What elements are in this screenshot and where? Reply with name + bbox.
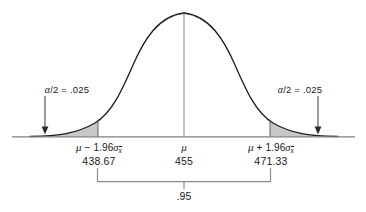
upper-sigma-subscript-xbar: x xyxy=(291,147,294,155)
mean-value: 455 xyxy=(175,156,193,167)
left-alpha-rest: /2 = .025 xyxy=(50,84,89,95)
mean-mu-symbol: μ xyxy=(181,141,187,153)
confidence-level-value: .95 xyxy=(176,191,191,202)
right-tail-pointer-arrow xyxy=(315,96,322,135)
right-tail-shaded-region xyxy=(270,121,332,137)
confidence-interval-bracket xyxy=(97,168,271,189)
upper-bound-value: 471.33 xyxy=(254,156,287,167)
left-tail-pointer-arrow xyxy=(42,96,49,135)
lower-mu-symbol: μ xyxy=(76,141,82,153)
left-tail-alpha-label: α/2 = .025 xyxy=(45,85,90,95)
lower-sigma-subscript-xbar: x xyxy=(119,147,122,155)
upper-operator: + xyxy=(257,142,263,153)
lower-coefficient: 1.96 xyxy=(93,142,113,153)
lower-operator: − xyxy=(85,142,91,153)
lower-bound-value: 438.67 xyxy=(82,156,115,167)
upper-mu-symbol: μ xyxy=(248,141,254,153)
lower-bound-expression: μ − 1.96σx xyxy=(76,142,122,155)
normal-distribution-confidence-interval-figure: α/2 = .025 α/2 = .025 μ − 1.96σx 438.67 … xyxy=(0,0,366,212)
right-tail-alpha-label: α/2 = .025 xyxy=(278,85,323,95)
distribution-plot-svg xyxy=(0,0,366,212)
upper-coefficient: 1.96 xyxy=(265,142,285,153)
mean-expression: μ xyxy=(181,142,187,153)
right-alpha-rest: /2 = .025 xyxy=(283,84,322,95)
upper-bound-expression: μ + 1.96σx xyxy=(248,142,294,155)
